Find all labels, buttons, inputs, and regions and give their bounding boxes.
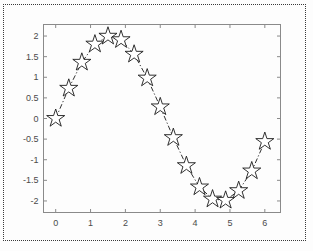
x-axis-ticks (56, 25, 265, 213)
x-tick-label: 4 (193, 219, 198, 228)
y-tick-label: 0.5 (26, 93, 39, 102)
y-tick-label: 1.5 (26, 52, 39, 61)
x-tick-label: 2 (123, 219, 128, 228)
plot-canvas (0, 0, 313, 251)
x-tick-label: 5 (227, 219, 232, 228)
data-point-marker (164, 128, 182, 145)
x-tick-label: 0 (53, 219, 58, 228)
y-tick-label: -1 (30, 155, 38, 164)
data-point-marker (47, 109, 65, 126)
x-tick-label: 3 (158, 219, 163, 228)
data-series-markers (47, 27, 274, 208)
data-point-marker (256, 132, 274, 149)
y-tick-label: 1 (33, 73, 38, 82)
data-point-marker (243, 161, 261, 178)
y-tick-label: 0 (33, 114, 38, 123)
data-point-marker (125, 45, 143, 62)
data-point-marker (151, 97, 169, 114)
y-tick-label: -2 (30, 196, 38, 205)
y-tick-label: -0.5 (23, 135, 39, 144)
data-point-marker (112, 30, 130, 47)
data-point-marker (86, 35, 104, 52)
y-tick-label: 2 (33, 32, 38, 41)
data-point-marker (73, 53, 91, 70)
data-point-marker (138, 69, 156, 86)
x-tick-label: 1 (88, 219, 93, 228)
x-tick-label: 6 (262, 219, 267, 228)
data-point-marker (190, 177, 208, 194)
data-point-marker (60, 79, 78, 96)
y-tick-label: -1.5 (23, 176, 39, 185)
data-point-marker (177, 156, 195, 173)
figure-root: 0123456 21.510.50-0.5-1-1.5-2 (0, 0, 313, 251)
axes-frame (44, 25, 281, 213)
data-point-marker (217, 191, 235, 208)
